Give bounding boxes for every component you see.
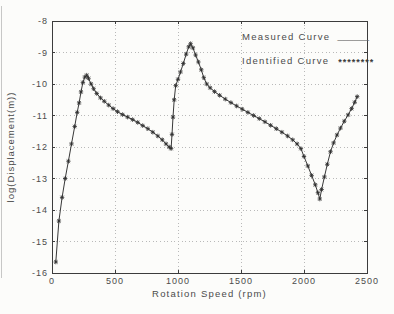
- x-axis-label: Rotation Speed (rpm): [52, 288, 367, 299]
- x-tick-label: 500: [98, 277, 132, 286]
- y-tick-label: -8: [12, 17, 48, 26]
- x-tick-label: 2000: [287, 277, 321, 286]
- x-tick-label: 1000: [161, 277, 195, 286]
- y-tick-label: -15: [12, 238, 48, 247]
- x-tick-label: 1500: [224, 277, 258, 286]
- series-measured-curve: [56, 44, 357, 262]
- y-tick-label: -9: [12, 49, 48, 58]
- legend-identified-label: Identified Curve: [242, 55, 329, 66]
- figure: log(Displacement(m)) Rotation Speed (rpm…: [0, 0, 394, 314]
- legend-entry-identified: Identified Curve********: [242, 55, 374, 66]
- legend-identified-marker-sample: ********: [338, 57, 374, 67]
- y-tick-label: -14: [12, 206, 48, 215]
- legend-measured-label: Measured Curve: [242, 31, 330, 42]
- x-tick-label: 2500: [350, 277, 384, 286]
- legend-measured-line-sample: ______: [337, 30, 369, 41]
- chart-plot-area: [0, 0, 394, 314]
- y-tick-label: -11: [12, 112, 48, 121]
- x-tick-label: 0: [35, 277, 69, 286]
- y-tick-label: -10: [12, 80, 48, 89]
- y-tick-label: -12: [12, 143, 48, 152]
- y-tick-label: -13: [12, 175, 48, 184]
- y-tick-label: -16: [12, 269, 48, 278]
- legend-entry-measured: Measured Curve______: [242, 31, 369, 42]
- series-identified-markers: [54, 41, 360, 264]
